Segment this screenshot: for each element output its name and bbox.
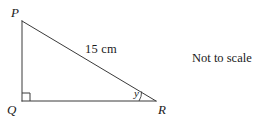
angle-arc-y-icon [139, 92, 142, 102]
vertex-label-q: Q [7, 103, 16, 116]
side-length-label-15cm: 15 cm [85, 43, 117, 56]
not-to-scale-note: Not to scale [192, 51, 252, 65]
angle-label-y: y [134, 88, 139, 99]
right-angle-marker-icon [22, 93, 30, 101]
vertex-label-r: R [158, 103, 166, 116]
geometry-figure: P Q R y 15 cm Not to scale [0, 0, 266, 126]
vertex-label-p: P [11, 6, 19, 19]
